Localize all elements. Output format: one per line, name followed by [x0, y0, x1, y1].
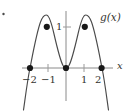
x-tick-label-neg1: −1: [41, 75, 56, 85]
x-tick-label-neg2: −2: [22, 75, 37, 85]
point-max-left: [44, 24, 50, 30]
bullet-icon: [2, 13, 4, 15]
point-root-right: [99, 65, 105, 71]
x-tick-label-2: 2: [95, 75, 101, 85]
x-tick-label-1: 1: [81, 75, 87, 85]
x-axis-label: x: [117, 61, 123, 71]
graph-figure: g(x) x 1 −2 −1 1 2: [0, 0, 132, 111]
function-label-gx: g(x): [100, 12, 121, 23]
point-max-right: [82, 24, 88, 30]
point-root-left: [27, 65, 33, 71]
y-tick-label-1: 1: [56, 22, 62, 32]
point-root-origin: [63, 65, 69, 71]
